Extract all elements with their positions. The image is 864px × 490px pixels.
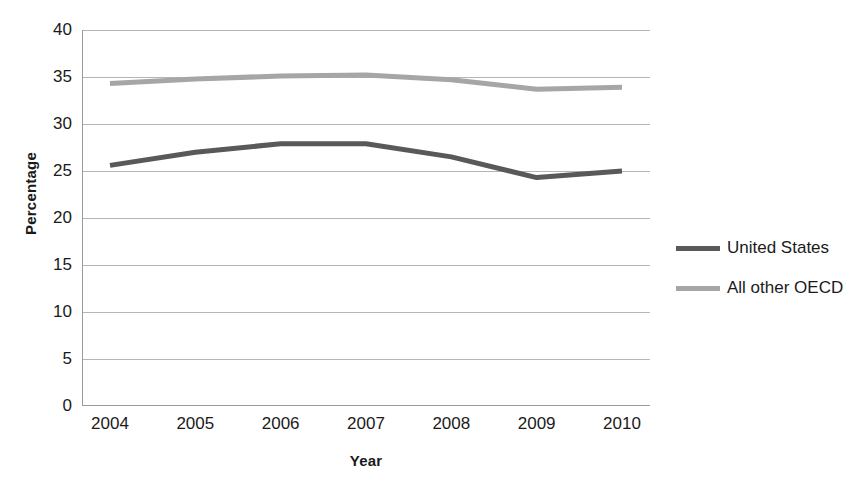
series-line (110, 144, 622, 178)
legend-label: All other OECD (727, 278, 843, 298)
legend-entry[interactable]: United States (676, 228, 862, 268)
y-tick-label: 15 (22, 255, 82, 275)
x-tick-label: 2010 (582, 414, 662, 434)
legend-swatch (676, 246, 720, 251)
x-axis-title: Year (82, 452, 650, 469)
legend-swatch (676, 286, 720, 291)
y-tick-label: 5 (22, 349, 82, 369)
series-container (82, 30, 650, 406)
x-tick-label: 2004 (70, 414, 150, 434)
x-tick-label: 2005 (155, 414, 235, 434)
legend-entry[interactable]: All other OECD (676, 268, 862, 308)
legend: United StatesAll other OECD (676, 228, 862, 308)
y-tick-label: 35 (22, 67, 82, 87)
x-tick-label: 2008 (411, 414, 491, 434)
y-tick-label: 25 (22, 161, 82, 181)
x-axis-tick-labels: 2004200520062007200820092010 (82, 414, 650, 440)
y-tick-label: 20 (22, 208, 82, 228)
legend-label: United States (727, 238, 829, 258)
series-line (110, 75, 622, 89)
y-tick-label: 10 (22, 302, 82, 322)
y-tick-label: 30 (22, 114, 82, 134)
line-chart: Percentage 0510152025303540 200420052006… (0, 0, 864, 490)
x-tick-label: 2007 (326, 414, 406, 434)
y-tick-label: 0 (22, 396, 82, 416)
y-axis-tick-labels: 0510152025303540 (0, 30, 82, 406)
x-tick-label: 2006 (241, 414, 321, 434)
plot-area (82, 30, 650, 406)
x-tick-label: 2009 (497, 414, 577, 434)
y-tick-label: 40 (22, 20, 82, 40)
